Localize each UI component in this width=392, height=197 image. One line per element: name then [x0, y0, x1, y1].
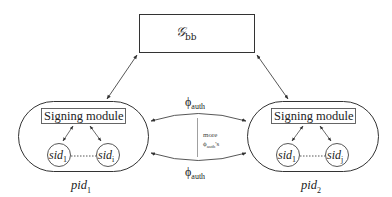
- phi-sub: auth: [191, 172, 205, 181]
- party-label-pid1: pid1: [71, 179, 91, 195]
- arrow-module-sidi-pid1: [90, 126, 101, 141]
- session-sub: i: [112, 155, 114, 164]
- channel-label-bottom: ϕauth: [185, 166, 205, 181]
- arrow-module-sid1-pid2: [292, 126, 303, 141]
- channel-arc-bottom: [151, 153, 246, 161]
- session-name: sid: [49, 148, 63, 162]
- channel-label-top: ϕauth: [185, 96, 205, 111]
- functionality-label: 𝒢bb: [176, 25, 197, 42]
- more-phi-line: ϕauth's: [203, 140, 219, 151]
- session-label-pid1-i: sidi: [98, 149, 114, 164]
- arrow-gbb-pid2: [257, 55, 288, 99]
- phi-sub: auth: [191, 102, 205, 111]
- session-label-pid2-1: sid1: [278, 149, 296, 164]
- party-sub: 1: [87, 186, 91, 195]
- session-sub: 1: [292, 155, 296, 164]
- plural-suffix: 's: [215, 140, 219, 148]
- functionality-subscript: bb: [185, 32, 197, 42]
- phi-sub: auth: [207, 144, 216, 149]
- session-sub: j: [341, 155, 343, 164]
- party-name: pid: [301, 178, 317, 192]
- session-name: sid: [278, 148, 292, 162]
- party-name: pid: [71, 178, 87, 192]
- functionality-box: [140, 15, 255, 53]
- party-sub: 2: [317, 186, 321, 195]
- more-channels-note: more ϕauth's: [203, 131, 219, 150]
- session-sub: 1: [63, 155, 67, 164]
- party-label-pid2: pid2: [301, 179, 321, 195]
- signing-module-label-pid1: Signing module: [44, 110, 124, 123]
- more-text: more: [203, 131, 219, 140]
- arrow-module-sidj-pid2: [320, 126, 331, 141]
- arrow-gbb-pid1: [107, 55, 137, 99]
- signing-module-label-pid2: Signing module: [274, 110, 354, 123]
- arrow-module-sid1-pid1: [63, 126, 73, 141]
- session-name: sid: [98, 148, 112, 162]
- session-label-pid2-j: sidj: [327, 149, 343, 164]
- session-label-pid1-1: sid1: [49, 149, 67, 164]
- channel-arc-top: [151, 114, 246, 122]
- functionality-symbol: 𝒢: [176, 24, 185, 39]
- session-name: sid: [327, 148, 341, 162]
